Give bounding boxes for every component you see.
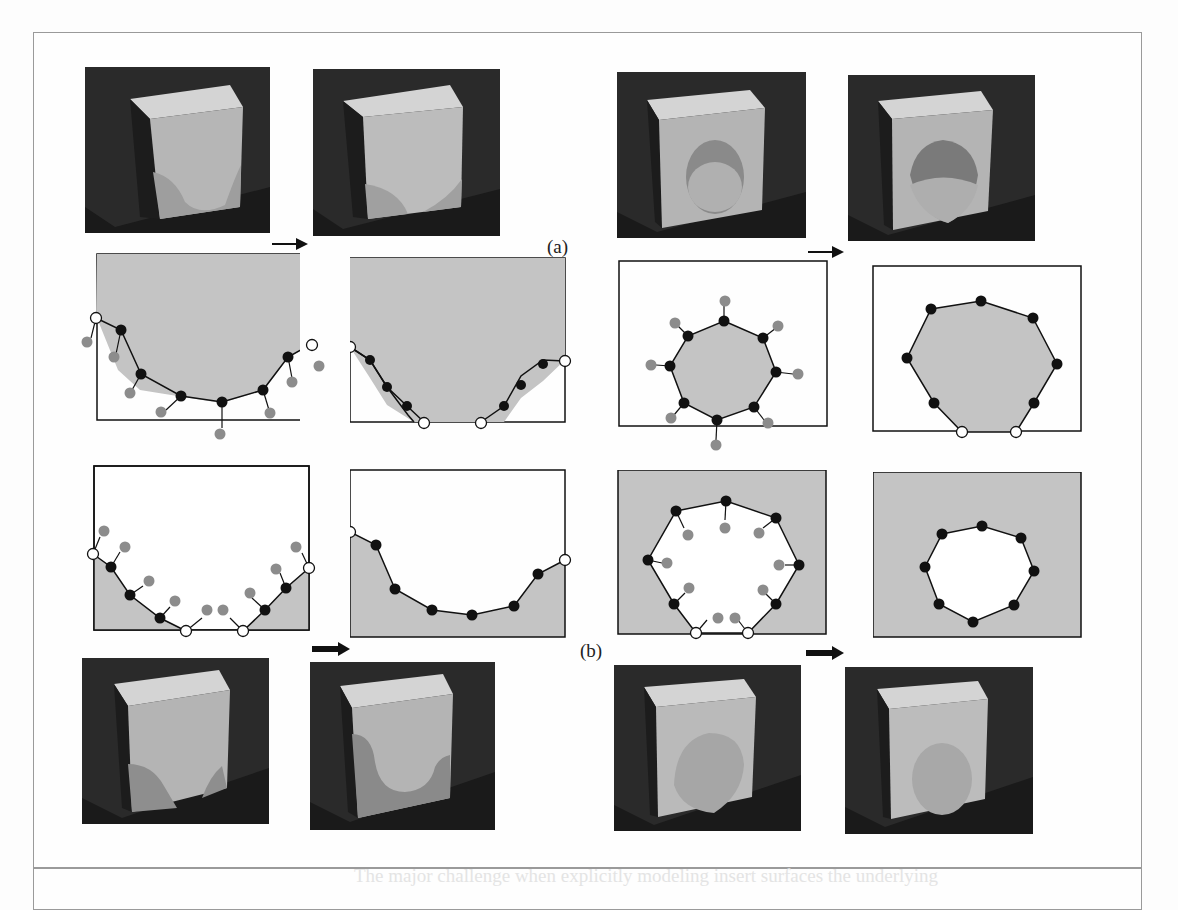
diagram-octagon-with-targets [618,260,848,455]
row-label-b: (b) [580,640,602,662]
diagram-v-curve-with-targets [80,455,320,645]
diagram-u-curve-with-targets [80,250,300,450]
render-u-notch-melted [313,69,500,236]
arrow-right-thick-icon [312,642,350,656]
diagram-u-curve-result [350,250,590,450]
arrow-right-thick-icon [806,646,844,660]
diagram-heptagon-with-targets [617,470,847,645]
target-vertex-icon [312,359,326,373]
diagram-octagon-result [872,260,1112,455]
next-frame: The major challenge when explicitly mode… [33,868,1142,910]
render-round-hole-melted [848,75,1035,241]
render-u-notch-start [85,67,270,233]
fixed-vertex-icon [305,338,319,352]
render-v-notch-grown [310,662,495,830]
arrow-right-icon [808,245,844,259]
render-round-plug-grown [845,667,1033,834]
diagram-v-curve-result [350,455,590,645]
diagram-heptagon-result [873,472,1093,642]
arrow-right-icon [272,237,308,251]
render-round-plug-start [614,665,801,831]
render-v-notch-start [82,658,269,824]
render-round-hole-start [617,72,806,238]
bleed-through-text: The major challenge when explicitly mode… [354,865,938,887]
